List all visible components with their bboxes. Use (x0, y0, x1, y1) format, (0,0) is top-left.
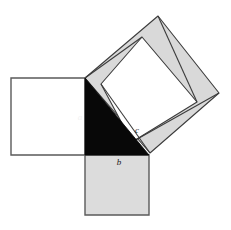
label-leg-b: b (117, 157, 122, 167)
label-leg-a: a (78, 112, 83, 122)
label-hypotenuse-c: c (135, 125, 139, 135)
pythagorean-diagram: a b c (0, 0, 231, 230)
square-a-on-leg-a (11, 78, 85, 155)
pythagorean-diagram-svg: a b c (0, 0, 231, 230)
